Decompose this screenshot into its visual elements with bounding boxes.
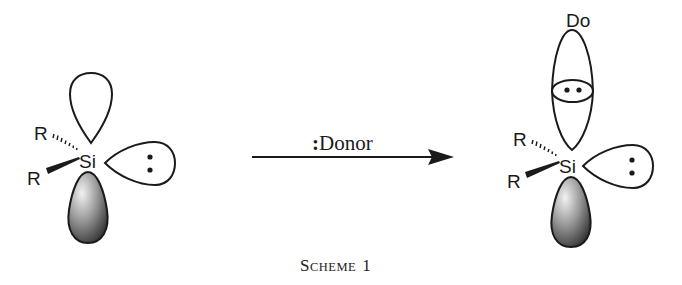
- si-atom-label: Si: [559, 156, 576, 177]
- hashed-bond: [532, 140, 556, 156]
- r-substituent-bottom: R: [507, 171, 521, 192]
- lone-pair-orbital-right: [583, 145, 653, 188]
- lone-pair-dot: [629, 157, 634, 162]
- lone-pair-orbital-right: [105, 142, 175, 185]
- wedge-bond: [46, 157, 80, 174]
- scheme-caption: SCHEME1: [300, 256, 371, 275]
- filled-p-orbital-bottom-lobe: [551, 177, 590, 247]
- empty-p-orbital-top-lobe: [70, 73, 112, 143]
- si-atom-label: Si: [79, 151, 96, 172]
- reaction-arrow: :Donor: [252, 131, 454, 165]
- donor-lone-pair-dot: [564, 87, 569, 92]
- lone-pair-dot: [629, 170, 634, 175]
- donor-lone-pair-dot: [576, 87, 581, 92]
- filled-p-orbital-bottom-lobe: [68, 172, 107, 243]
- lone-pair-dot: [147, 167, 152, 172]
- donor-orbital-lobe: [552, 30, 593, 91]
- lone-pair-dot: [147, 154, 152, 159]
- reagent-label: :Donor: [312, 131, 373, 155]
- reactant-silylene: Si R R: [27, 73, 175, 243]
- r-substituent-top: R: [513, 129, 527, 150]
- r-substituent-top: R: [34, 123, 48, 144]
- r-substituent-bottom: R: [27, 168, 41, 189]
- wedge-bond: [525, 161, 560, 178]
- coordination-overlap-ellipse: [552, 80, 593, 102]
- product-donor-adduct: Do Si R R: [507, 10, 653, 247]
- donor-label: Do: [566, 10, 590, 31]
- scheme-1-diagram: Si R R :Donor Do: [0, 0, 682, 285]
- hashed-bond: [53, 134, 77, 150]
